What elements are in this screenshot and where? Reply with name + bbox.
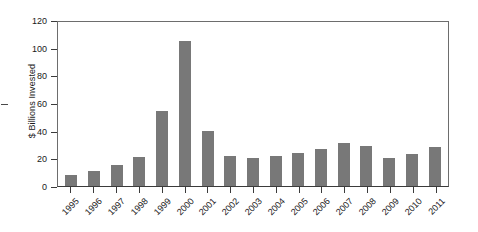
bar-slot — [423, 22, 446, 186]
bar — [224, 156, 236, 186]
x-axis-tick — [299, 187, 300, 193]
bar — [292, 153, 304, 186]
x-axis-tick — [116, 187, 117, 193]
bar-slot — [174, 22, 197, 186]
bar — [133, 157, 145, 186]
plot-area — [57, 21, 449, 187]
y-axis-tick — [51, 21, 57, 22]
bar-slot — [105, 22, 128, 186]
x-axis-tick — [390, 187, 391, 193]
x-axis-tick — [344, 187, 345, 193]
bar — [429, 147, 441, 186]
bar — [338, 143, 350, 186]
bar — [247, 158, 259, 186]
bar-series — [58, 22, 448, 186]
y-axis-tick — [51, 49, 57, 50]
x-axis-tick — [185, 187, 186, 193]
y-axis-tick-label: 100 — [0, 44, 47, 54]
x-axis-tick — [367, 187, 368, 193]
bar-slot — [401, 22, 424, 186]
y-axis-tick-label: 120 — [0, 16, 47, 26]
bar-slot — [219, 22, 242, 186]
bar-slot — [83, 22, 106, 186]
bar — [383, 158, 395, 186]
bar — [88, 171, 100, 186]
bar-slot — [264, 22, 287, 186]
x-axis-tick — [93, 187, 94, 193]
bar — [315, 149, 327, 186]
y-axis-tick-label: 60 — [0, 99, 47, 109]
x-axis-tick — [230, 187, 231, 193]
x-axis-tick — [276, 187, 277, 193]
x-axis-tick — [70, 187, 71, 193]
x-axis-tick — [253, 187, 254, 193]
bar-slot — [332, 22, 355, 186]
bar-chart-figure: $ Billions Invested 02040608010012019951… — [0, 0, 478, 232]
bar-slot — [151, 22, 174, 186]
x-axis-tick — [436, 187, 437, 193]
bar — [179, 41, 191, 186]
bar — [360, 146, 372, 186]
bar — [156, 111, 168, 186]
x-axis-tick — [207, 187, 208, 193]
y-axis-tick — [51, 132, 57, 133]
bar-slot — [242, 22, 265, 186]
bar — [406, 154, 418, 186]
x-axis-tick — [139, 187, 140, 193]
bar-slot — [196, 22, 219, 186]
x-axis-tick — [321, 187, 322, 193]
bar — [270, 156, 282, 186]
bar-slot — [310, 22, 333, 186]
bar-slot — [355, 22, 378, 186]
bar — [202, 131, 214, 186]
x-axis-tick — [413, 187, 414, 193]
bar-slot — [287, 22, 310, 186]
y-axis-tick-label: 80 — [0, 71, 47, 81]
y-axis-tick-label: 0 — [0, 182, 47, 192]
bar — [111, 165, 123, 186]
bar-slot — [60, 22, 83, 186]
y-axis-tick — [51, 187, 57, 188]
bar-slot — [128, 22, 151, 186]
y-axis-tick — [51, 104, 57, 105]
bar — [65, 175, 77, 186]
y-axis-tick — [51, 76, 57, 77]
x-axis-tick — [162, 187, 163, 193]
y-axis-tick — [51, 159, 57, 160]
bar-slot — [378, 22, 401, 186]
y-axis-tick-label: 40 — [0, 127, 47, 137]
y-axis-tick-label: 20 — [0, 154, 47, 164]
